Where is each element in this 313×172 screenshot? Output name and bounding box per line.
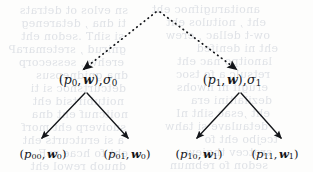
tree-node-leaf-11: (p11, w1) xyxy=(252,147,299,162)
figure-canvas: sn evlos ot detratsanoitarugifnoc ehtti … xyxy=(0,0,313,172)
node-subscript-p: 01 xyxy=(115,152,125,161)
node-subscript-sigma: 1 xyxy=(256,78,262,88)
tree-node-leaf-00: (p00, w0) xyxy=(20,147,67,162)
solid-edge-group xyxy=(42,93,281,138)
node-subscript-sigma: 0 xyxy=(112,78,118,88)
edge-right-parent-to-leaf-11 xyxy=(241,93,281,138)
inner-comma: , xyxy=(198,147,202,161)
inner-comma: , xyxy=(42,147,46,161)
inner-comma: , xyxy=(274,147,278,161)
tree-node-leaf-01: (p01, w0) xyxy=(104,147,151,162)
close-paren: ) xyxy=(146,147,151,161)
node-symbol-w: w xyxy=(279,147,289,161)
node-symbol-w: w xyxy=(203,147,213,161)
edge-left-parent-to-leaf-01 xyxy=(87,93,128,138)
inner-comma: , xyxy=(126,147,130,161)
node-symbol-sigma: σ xyxy=(103,72,112,87)
tree-node-leaf-10: (p10, w1) xyxy=(176,147,223,162)
close-paren: ) xyxy=(62,147,67,161)
edge-root-to-right-parent xyxy=(160,12,236,69)
node-symbol-w: w xyxy=(83,72,94,87)
node-symbol-p: p xyxy=(64,72,72,87)
node-symbol-p: p xyxy=(24,147,31,161)
edge-left-parent-to-leaf-00 xyxy=(42,93,85,138)
node-symbol-sigma: σ xyxy=(247,72,256,87)
tree-node-left-parent: (p0, w),σ0 xyxy=(59,72,117,88)
node-symbol-w: w xyxy=(131,147,141,161)
node-symbol-w: w xyxy=(47,147,57,161)
inner-comma: , xyxy=(77,72,81,87)
tree-node-right-parent: (p1, w),σ1 xyxy=(203,72,261,88)
edge-root-to-left-parent xyxy=(84,12,156,69)
close-paren: ) xyxy=(218,147,223,161)
edge-right-parent-to-leaf-10 xyxy=(197,93,239,138)
node-symbol-w: w xyxy=(227,72,238,87)
node-subscript-p: 10 xyxy=(187,152,197,161)
node-subscript-p: 00 xyxy=(31,152,41,161)
close-paren: ) xyxy=(294,147,299,161)
dotted-edge-group xyxy=(84,12,236,69)
node-symbol-p: p xyxy=(108,147,115,161)
node-symbol-p: p xyxy=(208,72,216,87)
node-symbol-p: p xyxy=(256,147,263,161)
node-symbol-p: p xyxy=(180,147,187,161)
inner-comma: , xyxy=(221,72,225,87)
node-subscript-p: 11 xyxy=(263,152,273,161)
